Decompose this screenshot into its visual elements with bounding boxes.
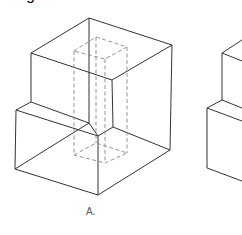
figure-a-label: A.	[86, 206, 95, 217]
isometric-diagram	[0, 0, 242, 235]
figure-a-solid-edges	[15, 18, 172, 195]
figure-b-solid-edges	[207, 40, 242, 181]
figure-a-hidden-prism	[74, 37, 127, 163]
